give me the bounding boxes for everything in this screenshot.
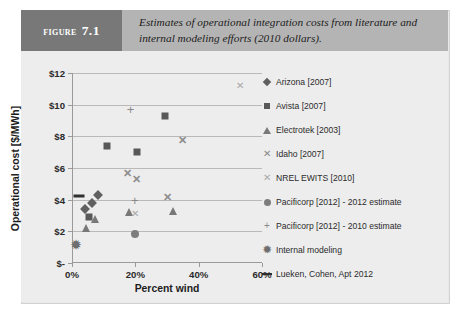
figure-container: Figure 7.1 Estimates of operational inte… <box>0 0 469 318</box>
x-tick <box>135 263 136 267</box>
legend-swatch: ✕ <box>263 149 271 159</box>
x-tick <box>199 263 200 267</box>
legend-swatch <box>263 127 271 134</box>
legend-swatch: ✹ <box>263 245 271 255</box>
legend-label: NREL EWITS [2010] <box>276 173 355 183</box>
legend-item[interactable]: ✹Internal modeling <box>259 238 444 262</box>
gridline <box>72 136 262 137</box>
figure-label-word: Figure <box>43 25 77 37</box>
legend-item[interactable]: +Pacificorp [2012] - 2010 estimate <box>259 214 444 238</box>
legend-label: Electrotek [2003] <box>276 125 341 135</box>
figure-caption-text: Estimates of operational integration cos… <box>139 15 439 46</box>
legend-label: Avista [2007] <box>276 101 326 111</box>
y-tick <box>68 136 72 137</box>
figure-caption-band: Figure 7.1 Estimates of operational inte… <box>21 10 448 51</box>
y-tick-label: $12 <box>49 68 65 79</box>
y-tick <box>68 200 72 201</box>
legend-swatch <box>263 78 271 86</box>
y-tick-label: $4 <box>54 194 65 205</box>
legend-label: Pacificorp [2012] - 2012 estimate <box>276 197 402 207</box>
y-tick <box>68 168 72 169</box>
y-tick <box>68 105 72 106</box>
legend-marker-icon <box>259 103 275 109</box>
gridline <box>72 200 262 201</box>
gridline <box>72 168 262 169</box>
gridline <box>72 105 262 106</box>
y-axis-title: Operational cost [$/MWh] <box>8 73 24 263</box>
y-axis-title-text: Operational cost [$/MWh] <box>11 105 22 230</box>
figure-number-tab: Figure 7.1 <box>21 10 122 51</box>
gridline <box>72 231 262 232</box>
legend-marker-icon <box>259 127 275 134</box>
y-tick-label: $- <box>56 258 65 269</box>
chart-legend: Arizona [2007]Avista [2007]Electrotek [2… <box>259 70 444 286</box>
legend-label: Idaho [2007] <box>276 149 324 159</box>
legend-label: Internal modeling <box>276 245 342 255</box>
legend-label: Pacificorp [2012] - 2010 estimate <box>276 221 402 231</box>
legend-item[interactable]: ✕Idaho [2007] <box>259 142 444 166</box>
x-tick-label: 40% <box>189 269 208 280</box>
legend-item[interactable]: Electrotek [2003] <box>259 118 444 142</box>
x-axis-title: Percent wind <box>72 283 262 294</box>
legend-marker-icon: ✕ <box>259 149 275 159</box>
y-tick-label: $10 <box>49 99 65 110</box>
figure-label-number: 7.1 <box>82 23 100 39</box>
legend-item[interactable]: Lueken, Cohen, Apt 2012 <box>259 262 444 286</box>
legend-label: Arizona [2007] <box>276 77 331 87</box>
legend-swatch: + <box>264 221 270 231</box>
legend-marker-icon <box>259 199 275 206</box>
legend-item[interactable]: ✕NREL EWITS [2010] <box>259 166 444 190</box>
legend-label: Lueken, Cohen, Apt 2012 <box>276 269 373 279</box>
x-tick-label: 20% <box>126 269 145 280</box>
legend-marker-icon: ✹ <box>259 245 275 255</box>
y-tick-label: $6 <box>54 163 65 174</box>
legend-item[interactable]: Avista [2007] <box>259 94 444 118</box>
legend-item[interactable]: Pacificorp [2012] - 2012 estimate <box>259 190 444 214</box>
legend-swatch <box>264 199 271 206</box>
legend-marker-icon: ✕ <box>259 173 275 183</box>
x-tick-label: 0% <box>65 269 79 280</box>
plot-region: $-$2$4$6$8$10$12 0%20%40%60% ✕✕✕✕✕✕++✹ <box>72 73 262 263</box>
legend-swatch <box>262 273 272 276</box>
legend-marker-icon <box>259 273 275 276</box>
legend-swatch: ✕ <box>263 173 271 183</box>
y-tick <box>68 73 72 74</box>
x-axis-line <box>72 262 262 263</box>
y-tick-label: $8 <box>54 131 65 142</box>
y-tick-label: $2 <box>54 226 65 237</box>
legend-marker-icon <box>259 79 275 85</box>
legend-swatch <box>264 103 270 109</box>
legend-item[interactable]: Arizona [2007] <box>259 70 444 94</box>
legend-marker-icon: + <box>259 221 275 231</box>
y-axis-line <box>72 73 73 263</box>
x-tick <box>72 263 73 267</box>
gridline <box>72 73 262 74</box>
y-tick <box>68 231 72 232</box>
